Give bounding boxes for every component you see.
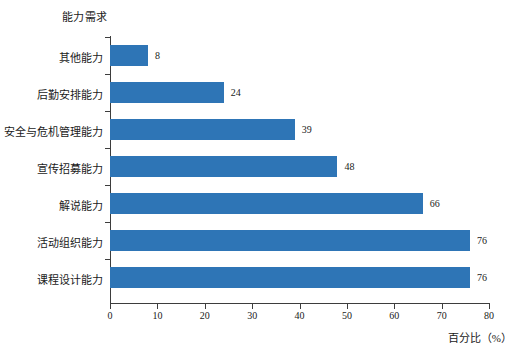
bar-row: 39	[110, 119, 335, 140]
bar-value-label: 66	[430, 196, 440, 211]
x-axis-tick-label: 20	[190, 310, 220, 321]
bar[interactable]	[110, 193, 423, 214]
bar-value-label: 8	[155, 48, 160, 63]
x-axis-tick-label: 30	[237, 310, 267, 321]
x-axis-tick	[489, 304, 490, 309]
x-axis-tick-label: 0	[95, 310, 125, 321]
bar[interactable]	[110, 82, 224, 103]
bar-row: 24	[110, 82, 264, 103]
bar-row: 48	[110, 156, 377, 177]
x-axis-tick-label: 70	[427, 310, 457, 321]
y-axis-tick	[105, 185, 110, 186]
chart-title: 能力需求	[62, 8, 108, 24]
y-axis-tick	[105, 148, 110, 149]
x-axis-title: 百分比（%）	[448, 329, 512, 345]
bar-value-label: 48	[344, 159, 354, 174]
x-axis-tick-label: 80	[474, 310, 504, 321]
category-label: 活动组织能力	[0, 234, 103, 250]
bar-row: 76	[110, 267, 510, 288]
x-axis-tick-label: 50	[332, 310, 362, 321]
category-label: 安全与危机管理能力	[0, 123, 103, 139]
bar-value-label: 24	[231, 85, 241, 100]
x-axis-tick	[110, 304, 111, 309]
y-axis-tick	[105, 111, 110, 112]
x-axis-tick	[394, 304, 395, 309]
bar-row: 66	[110, 193, 463, 214]
bar[interactable]	[110, 156, 337, 177]
bar[interactable]	[110, 119, 295, 140]
x-axis-tick	[300, 304, 301, 309]
y-axis-tick	[105, 259, 110, 260]
x-axis-tick-label: 10	[142, 310, 172, 321]
bar-chart: 能力需求 8243948667676 其他能力后勤安排能力安全与危机管理能力宣传…	[0, 0, 530, 358]
x-axis-tick	[252, 304, 253, 309]
bar[interactable]	[110, 45, 148, 66]
x-axis-tick	[442, 304, 443, 309]
y-axis-tick	[105, 222, 110, 223]
bar-value-label: 76	[477, 270, 487, 285]
bar-row: 76	[110, 230, 510, 251]
category-label: 解说能力	[0, 197, 103, 213]
bar[interactable]	[110, 230, 470, 251]
bar[interactable]	[110, 267, 470, 288]
category-label: 课程设计能力	[0, 271, 103, 287]
y-axis-tick	[105, 74, 110, 75]
x-axis-tick	[205, 304, 206, 309]
category-label: 宣传招募能力	[0, 160, 103, 176]
x-axis-tick-label: 60	[379, 310, 409, 321]
bar-row: 8	[110, 45, 188, 66]
category-label: 其他能力	[0, 49, 103, 65]
bar-value-label: 76	[477, 233, 487, 248]
x-axis-tick-label: 40	[285, 310, 315, 321]
bar-value-label: 39	[302, 122, 312, 137]
x-axis-tick	[347, 304, 348, 309]
y-axis-tick	[105, 37, 110, 38]
category-label: 后勤安排能力	[0, 86, 103, 102]
x-axis-tick	[157, 304, 158, 309]
